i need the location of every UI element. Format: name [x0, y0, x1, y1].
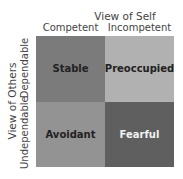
row-label-undependable: Undependable — [19, 99, 31, 169]
column-label-incompetent: Incompetent — [105, 22, 174, 33]
quadrant-avoidant: Avoidant — [36, 102, 105, 168]
quadrant-stable: Stable — [36, 36, 105, 102]
column-label-competent: Competent — [36, 22, 105, 33]
quadrant-label: Stable — [52, 63, 88, 74]
quadrant-label: Fearful — [120, 129, 160, 140]
left-axis-title: View of Others — [6, 41, 18, 161]
quadrant-preoccupied: Preoccupied — [105, 36, 174, 102]
row-label-dependable: Dependable — [19, 33, 31, 103]
quadrant-grid: Stable Preoccupied Avoidant Fearful — [36, 36, 174, 167]
quadrant-fearful: Fearful — [105, 102, 174, 168]
top-axis-title: View of Self — [65, 10, 183, 22]
quadrant-label: Preoccupied — [105, 63, 174, 74]
quadrant-label: Avoidant — [45, 129, 95, 140]
